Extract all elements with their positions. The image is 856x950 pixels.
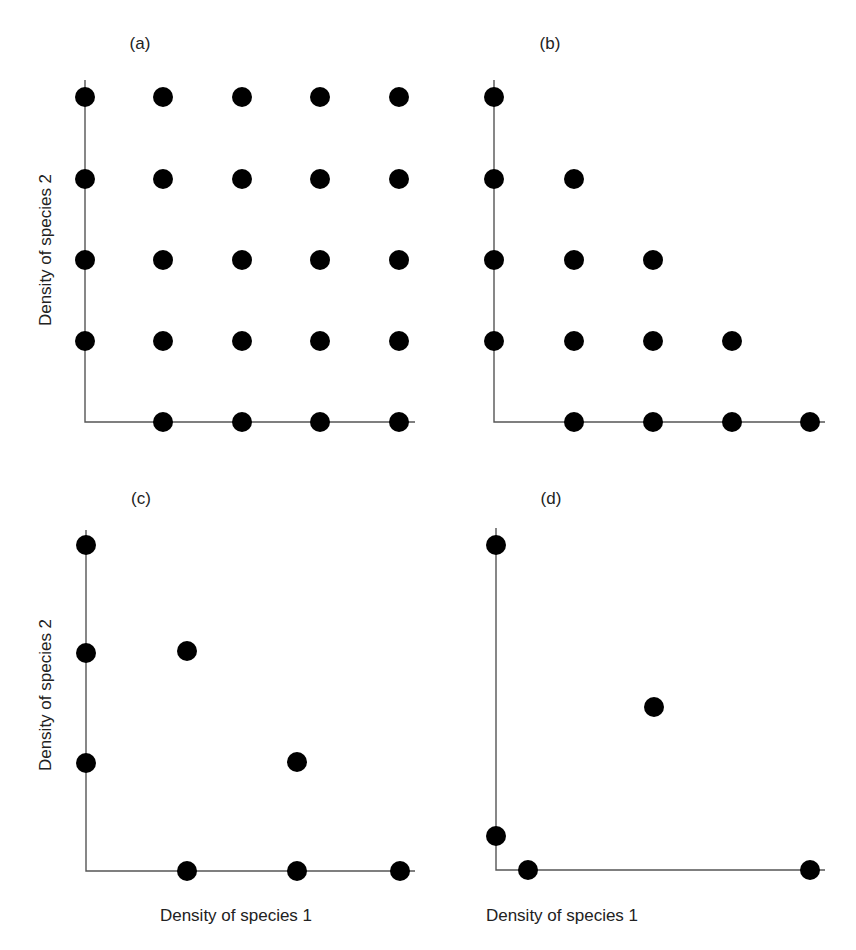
data-point (518, 860, 538, 880)
data-point (800, 860, 820, 880)
x-axis-label-d: Density of species 1 (486, 906, 638, 925)
data-point (75, 250, 95, 270)
panel-label-d: (d) (541, 489, 562, 508)
panel-b: (b) (484, 34, 825, 432)
data-point (644, 697, 664, 717)
data-point (484, 87, 504, 107)
data-point (310, 169, 330, 189)
data-point (232, 169, 252, 189)
data-point (389, 412, 409, 432)
data-point (800, 412, 820, 432)
data-point (486, 826, 506, 846)
panel-d: (d) Density of species 1 (486, 489, 825, 925)
data-point (76, 643, 96, 663)
data-point (484, 250, 504, 270)
data-points-c (76, 535, 410, 881)
data-point (75, 169, 95, 189)
y-axis-label-a: Density of species 2 (36, 174, 55, 326)
panel-c: (c) Density of species 2 Density of spec… (36, 489, 415, 925)
axes-a (85, 80, 415, 422)
axes-c (86, 530, 415, 871)
data-point (232, 250, 252, 270)
figure: (a) Density of species 2 (b) (c) Density… (0, 0, 856, 950)
data-point (75, 331, 95, 351)
data-point (76, 535, 96, 555)
data-point (153, 331, 173, 351)
data-point (564, 250, 584, 270)
data-point (287, 752, 307, 772)
data-point (153, 412, 173, 432)
data-points-d (486, 535, 820, 880)
axes-b (494, 80, 825, 422)
x-axis-label-c: Density of species 1 (160, 906, 312, 925)
data-point (484, 169, 504, 189)
data-points-b (484, 87, 820, 432)
data-point (75, 87, 95, 107)
data-point (722, 412, 742, 432)
data-point (153, 169, 173, 189)
data-points-a (75, 87, 409, 432)
data-point (722, 331, 742, 351)
data-point (310, 412, 330, 432)
data-point (177, 641, 197, 661)
data-point (390, 861, 410, 881)
data-point (389, 331, 409, 351)
panel-a: (a) Density of species 2 (36, 34, 415, 432)
data-point (486, 535, 506, 555)
data-point (564, 169, 584, 189)
data-point (643, 412, 663, 432)
data-point (564, 331, 584, 351)
data-point (287, 861, 307, 881)
data-point (76, 753, 96, 773)
data-point (232, 412, 252, 432)
data-point (153, 250, 173, 270)
axes-d (496, 528, 825, 870)
data-point (310, 87, 330, 107)
data-point (484, 331, 504, 351)
data-point (310, 250, 330, 270)
data-point (389, 87, 409, 107)
data-point (310, 331, 330, 351)
data-point (643, 250, 663, 270)
data-point (564, 412, 584, 432)
data-point (389, 169, 409, 189)
data-point (232, 331, 252, 351)
data-point (153, 87, 173, 107)
data-point (177, 861, 197, 881)
panel-label-b: (b) (540, 34, 561, 53)
panel-label-a: (a) (130, 34, 151, 53)
data-point (232, 87, 252, 107)
panel-label-c: (c) (131, 489, 151, 508)
data-point (389, 250, 409, 270)
data-point (643, 331, 663, 351)
y-axis-label-c: Density of species 2 (36, 619, 55, 771)
